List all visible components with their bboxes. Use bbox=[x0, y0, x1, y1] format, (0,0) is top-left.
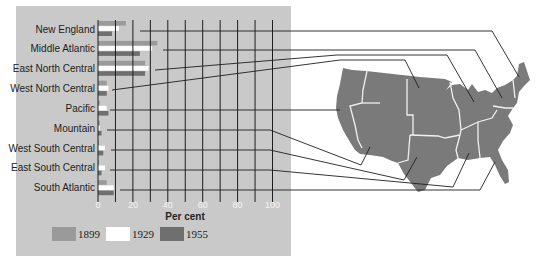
bar-1955 bbox=[98, 171, 101, 176]
legend-label: 1929 bbox=[132, 228, 154, 240]
bar-1955 bbox=[98, 51, 140, 56]
bars-group bbox=[98, 21, 157, 195]
bar-1899 bbox=[98, 180, 107, 185]
legend-label: 1955 bbox=[186, 228, 208, 240]
legend: 1899 1929 1955 bbox=[52, 227, 214, 241]
legend-swatch bbox=[160, 227, 184, 241]
bar-1929 bbox=[98, 86, 108, 91]
bar-1929 bbox=[98, 46, 152, 51]
bar-1929 bbox=[98, 185, 114, 190]
bar-1955 bbox=[98, 151, 103, 156]
legend-swatch bbox=[106, 227, 130, 241]
bar-1955 bbox=[98, 111, 108, 116]
bar-1899 bbox=[98, 41, 157, 46]
bar-1955 bbox=[98, 71, 145, 76]
bar-1929 bbox=[98, 166, 105, 171]
bar-1929 bbox=[98, 66, 149, 71]
connector-mountain bbox=[107, 130, 370, 165]
x-tick-label: 80 bbox=[233, 200, 243, 210]
x-tick-label: 0 bbox=[95, 200, 100, 210]
legend-label: 1899 bbox=[78, 228, 100, 240]
bar-1955 bbox=[98, 191, 114, 196]
legend-swatch bbox=[52, 227, 76, 241]
bar-1955 bbox=[98, 31, 112, 36]
bar-1929 bbox=[98, 146, 105, 151]
x-tick-label: 100 bbox=[265, 200, 280, 210]
bar-1929 bbox=[98, 106, 107, 111]
us-map bbox=[336, 62, 530, 192]
chart-svg bbox=[0, 0, 545, 265]
bar-1955 bbox=[98, 131, 101, 136]
legend-item-1899: 1899 bbox=[52, 227, 100, 241]
legend-item-1955: 1955 bbox=[160, 227, 208, 241]
connector-new-england bbox=[140, 31, 519, 77]
bar-1955 bbox=[98, 91, 107, 96]
x-tick-label: 40 bbox=[163, 200, 173, 210]
bar-1899 bbox=[98, 81, 107, 86]
x-tick-label: 60 bbox=[198, 200, 208, 210]
x-axis-label: Per cent bbox=[165, 211, 204, 222]
legend-item-1929: 1929 bbox=[106, 227, 154, 241]
bar-1899 bbox=[98, 21, 126, 26]
x-tick-label: 20 bbox=[128, 200, 138, 210]
bar-1899 bbox=[98, 61, 145, 66]
